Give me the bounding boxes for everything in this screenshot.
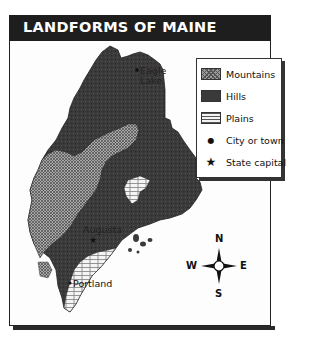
compass-s: S (215, 288, 222, 299)
legend-item-mountains: Mountains (201, 67, 275, 81)
island (137, 251, 140, 254)
compass-rose (201, 248, 237, 284)
compass-e: E (240, 260, 247, 271)
capital-star-augusta: ★ (89, 235, 97, 245)
city-dot-portland (69, 282, 72, 285)
city-dot-eagle-lake (135, 68, 139, 72)
island (128, 248, 132, 252)
legend-item-hills: Hills (201, 89, 246, 103)
mountains-swatch-icon (201, 68, 221, 80)
compass-n: N (215, 233, 223, 244)
label-portland: Portland (73, 278, 112, 289)
island (140, 242, 146, 247)
label-augusta: Augusta (83, 224, 122, 235)
compass-w: W (186, 260, 197, 271)
plains-swatch-icon (201, 112, 221, 124)
hills-swatch-icon (201, 90, 221, 102)
island (148, 238, 153, 242)
legend-item-capital: ★ State capital (201, 155, 286, 169)
star-icon: ★ (201, 155, 221, 169)
legend-item-city: ● City or town (201, 133, 284, 147)
dot-icon: ● (201, 136, 221, 145)
label-eagle-lake: Eagle Lake (140, 66, 166, 86)
island (133, 234, 139, 242)
legend: Mountains Hills Plains ● City or town ★ … (196, 58, 282, 178)
legend-item-plains: Plains (201, 111, 254, 125)
region-mountains-sw (38, 262, 52, 278)
